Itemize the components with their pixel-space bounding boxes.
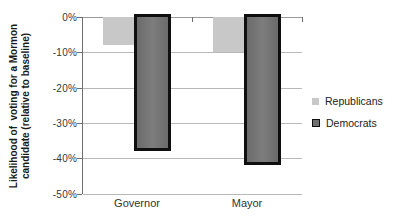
bar-republicans-mayor	[213, 17, 244, 52]
x-tick-mark	[302, 17, 303, 22]
gridline	[83, 194, 302, 195]
republicans-swatch-icon	[312, 98, 319, 105]
bar-republicans-governor	[103, 17, 134, 45]
y-tick-label: -50%	[37, 188, 77, 199]
y-axis-line	[82, 17, 83, 194]
y-axis-title-line1: Likelihood of voting for a Mormon	[8, 1, 20, 211]
y-tick-mark	[77, 52, 82, 53]
y-tick-label: -10%	[37, 47, 77, 58]
y-tick-mark	[77, 123, 82, 124]
category-label-mayor: Mayor	[232, 197, 263, 209]
legend: Republicans Democrats	[312, 95, 383, 139]
y-tick-mark	[77, 158, 82, 159]
y-tick-label: -40%	[37, 153, 77, 164]
x-tick-mark	[192, 17, 193, 22]
y-axis-title: Likelihood of voting for a Mormon candid…	[8, 1, 32, 211]
democrats-swatch-icon	[312, 119, 320, 127]
bar-democrats-governor	[134, 14, 171, 151]
y-tick-mark	[77, 194, 82, 195]
y-tick-label: -20%	[37, 82, 77, 93]
y-tick-label: 0%	[37, 12, 77, 23]
legend-item-republicans: Republicans	[312, 95, 383, 107]
bar-democrats-mayor	[244, 14, 281, 165]
legend-item-democrats: Democrats	[312, 117, 383, 129]
y-axis-title-line2: candidate (relative to baseline)	[20, 1, 32, 211]
x-tick-mark	[82, 17, 83, 22]
chart: Likelihood of voting for a Mormon candid…	[0, 0, 393, 222]
y-tick-label: -30%	[37, 117, 77, 128]
category-label-governor: Governor	[114, 197, 160, 209]
legend-label-republicans: Republicans	[325, 95, 383, 107]
legend-label-democrats: Democrats	[326, 117, 377, 129]
y-tick-mark	[77, 88, 82, 89]
